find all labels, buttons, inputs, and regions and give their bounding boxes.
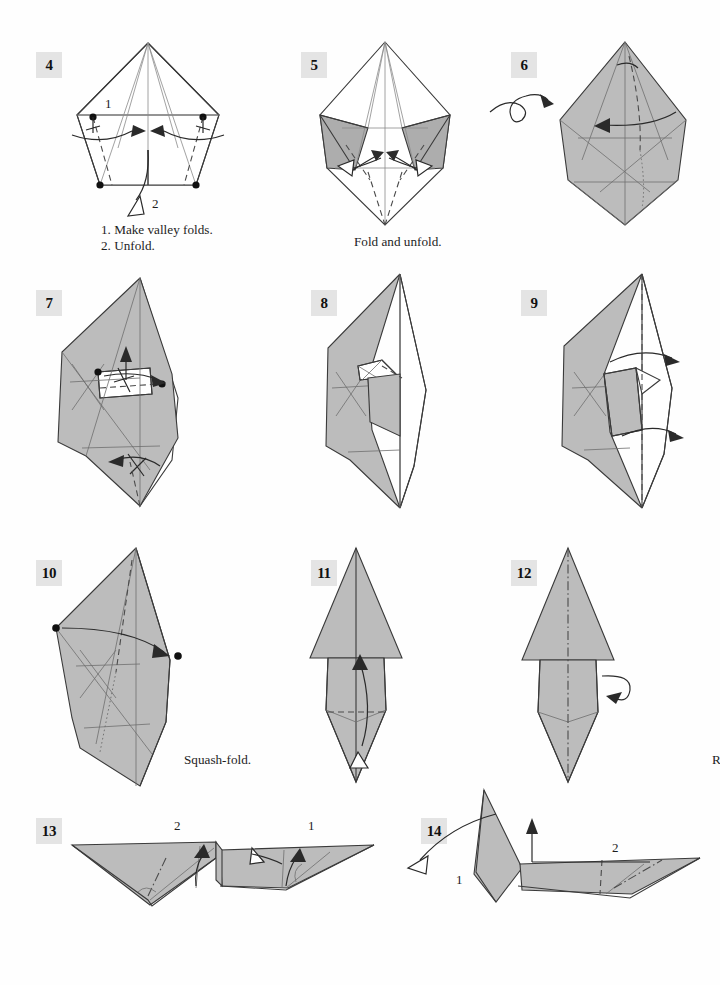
- step-12: 12 Fold in half and rotate 90°.: [490, 540, 720, 800]
- turn-over-icon: [490, 94, 554, 122]
- step-14: 14 1 2 1. Un: [400, 790, 720, 985]
- reference-dot-right: [174, 652, 182, 660]
- step-13: 13: [0, 800, 400, 985]
- paper-back-layer: [400, 274, 426, 508]
- reference-dot-left-bottom: [96, 181, 103, 188]
- fold-in-half-arrow-head: [606, 692, 622, 704]
- step-12-diagram: [490, 540, 720, 790]
- step-7-diagram: [0, 270, 290, 520]
- paper-center-body: [216, 842, 222, 886]
- paper-left-wing: [72, 842, 216, 905]
- paper-right-wing: [220, 845, 374, 888]
- rotate-marker-head: [526, 818, 538, 834]
- step-14-diagram: 1 2: [400, 790, 720, 930]
- step-7: 7: [0, 270, 290, 540]
- step-9-diagram: [500, 270, 720, 520]
- origami-diagram-page: 4: [0, 0, 720, 985]
- step-4-diagram: 1 2: [0, 0, 280, 230]
- step-13-label-1: 1: [308, 818, 315, 833]
- fold-arrow-upper-head: [664, 354, 680, 366]
- step-14-label-1: 1: [456, 872, 463, 887]
- fold-arrow-lower-head: [668, 430, 684, 442]
- step-13-label-2: 2: [174, 818, 181, 833]
- step-4-label-1: 1: [105, 96, 112, 111]
- step-5-caption-line-1: Fold and unfold.: [354, 234, 442, 251]
- reference-dot-left: [52, 624, 60, 632]
- paper-main-outline: [56, 548, 170, 786]
- unfold-arrow-head: [408, 856, 428, 874]
- step-8-diagram: [290, 270, 500, 520]
- step-5: 5: [280, 0, 490, 270]
- step-11-diagram: [290, 540, 500, 790]
- paper-main-outline: [560, 42, 686, 225]
- paper-neck: [474, 790, 522, 902]
- step-8: 8 Reverse-fold.: [290, 270, 500, 540]
- step-4-label-2: 2: [152, 196, 159, 211]
- reference-dot-left: [94, 368, 101, 375]
- step-9: 9: [500, 270, 720, 540]
- step-6: 6: [490, 0, 720, 270]
- step-10: 10 Repeat steps 6–9 on the left.: [0, 540, 290, 800]
- unfold-arrow-head: [128, 196, 144, 216]
- paper-lower-inner: [368, 374, 400, 436]
- step-4: 4: [0, 0, 280, 270]
- step-11: 11 Fold and unfold.: [290, 540, 500, 800]
- step-6-diagram: [490, 0, 720, 230]
- step-10-diagram: [0, 540, 290, 790]
- step-4-caption-line-1: 1. Make valley folds.: [101, 222, 213, 239]
- step-14-label-2: 2: [612, 840, 619, 855]
- reference-dot-right-bottom: [192, 181, 199, 188]
- step-5-diagram: [280, 0, 490, 230]
- step-13-diagram: 2 1: [0, 800, 400, 935]
- step-4-caption-line-2: 2. Unfold.: [101, 238, 155, 255]
- rotate-marker-line: [532, 828, 650, 862]
